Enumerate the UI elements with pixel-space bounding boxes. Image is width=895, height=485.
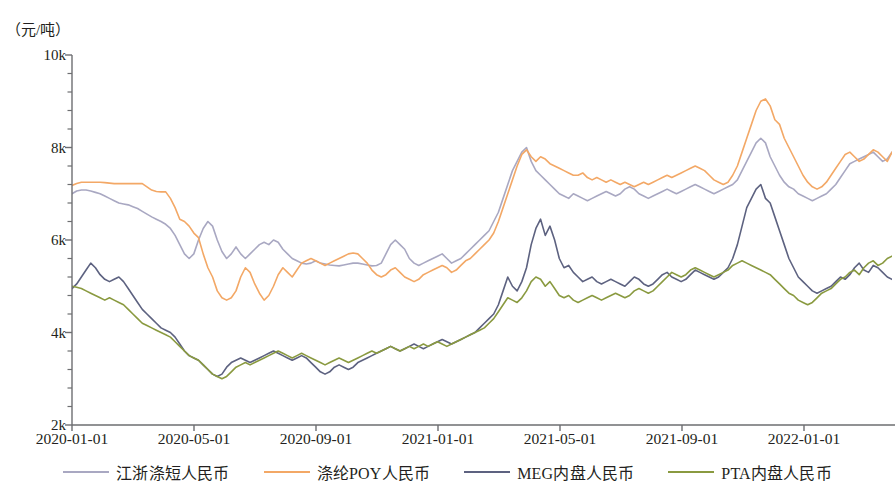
legend-item[interactable]: 涤纶POY人民币 — [264, 460, 431, 484]
y-axis-tick-label: 4k — [51, 324, 66, 341]
legend-label: 涤纶POY人民币 — [317, 460, 431, 484]
legend-label: PTA内盘人民币 — [721, 460, 832, 484]
y-axis-tick-labels: 2k4k6k8k10k — [0, 0, 66, 485]
legend-label: MEG内盘人民币 — [517, 460, 634, 484]
x-axis-tick-label: 2021-01-01 — [402, 430, 474, 448]
x-axis-tick-label: 2020-01-01 — [36, 430, 108, 448]
series-lines — [72, 55, 892, 425]
series-line — [72, 185, 892, 377]
legend-line-icon — [668, 471, 714, 473]
chart-legend: 江浙涤短人民币涤纶POY人民币MEG内盘人民币PTA内盘人民币 — [0, 459, 895, 485]
legend-line-icon — [63, 471, 109, 473]
legend-label: 江浙涤短人民币 — [116, 460, 229, 484]
legend-line-icon — [464, 471, 510, 473]
x-axis-tick-label: 2022-01-01 — [768, 430, 840, 448]
x-axis-tick-labels: 2020-01-012020-05-012020-09-012021-01-01… — [0, 430, 895, 456]
price-trend-chart: （元/吨） 2k4k6k8k10k 2020-01-012020-05-0120… — [0, 0, 895, 485]
y-axis-tick-label: 8k — [51, 139, 66, 156]
legend-item[interactable]: 江浙涤短人民币 — [63, 460, 229, 484]
series-line — [72, 99, 892, 300]
y-axis-tick-label: 10k — [44, 47, 67, 64]
x-axis-tick-label: 2020-09-01 — [280, 430, 352, 448]
legend-line-icon — [264, 471, 310, 473]
x-axis-tick-label: 2020-05-01 — [158, 430, 230, 448]
x-axis-tick-label: 2021-09-01 — [646, 430, 718, 448]
legend-item[interactable]: MEG内盘人民币 — [464, 460, 634, 484]
series-line — [72, 256, 892, 379]
x-axis-tick-label: 2021-05-01 — [524, 430, 596, 448]
plot-area — [72, 55, 892, 425]
y-axis-tick-label: 6k — [51, 232, 66, 249]
legend-item[interactable]: PTA内盘人民币 — [668, 460, 832, 484]
